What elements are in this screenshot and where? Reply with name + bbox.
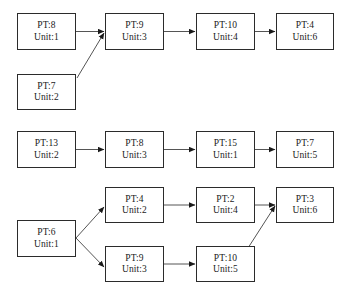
node-unit-label: Unit:1 — [34, 32, 59, 43]
node-pt-label: PT:6 — [37, 227, 55, 238]
node-chain1-pt10[interactable]: PT:10 Unit:4 — [196, 13, 255, 50]
node-unit-label: Unit:2 — [34, 150, 59, 161]
edge-n5-n2 — [77, 33, 104, 78]
node-pt-label: PT:9 — [125, 20, 143, 31]
node-chain1-pt7[interactable]: PT:7 Unit:2 — [17, 74, 76, 110]
node-chain3-pt3[interactable]: PT:3 Unit:6 — [276, 187, 334, 223]
node-unit-label: Unit:4 — [213, 205, 238, 216]
node-pt-label: PT:2 — [216, 194, 234, 205]
node-unit-label: Unit:3 — [122, 264, 147, 275]
edge-b1-b2 — [76, 207, 104, 238]
edge-b1-b5 — [76, 238, 104, 267]
node-unit-label: Unit:2 — [34, 92, 59, 103]
node-unit-label: Unit:2 — [122, 205, 147, 216]
node-pt-label: PT:7 — [37, 81, 55, 92]
node-pt-label: PT:3 — [296, 194, 314, 205]
node-pt-label: PT:4 — [125, 194, 143, 205]
node-chain3-pt6[interactable]: PT:6 Unit:1 — [17, 220, 76, 257]
node-chain2-pt13[interactable]: PT:13 Unit:2 — [17, 131, 76, 168]
node-chain2-pt7[interactable]: PT:7 Unit:5 — [276, 131, 334, 168]
node-unit-label: Unit:6 — [293, 32, 318, 43]
node-chain3-pt2[interactable]: PT:2 Unit:4 — [196, 187, 255, 223]
node-pt-label: PT:8 — [125, 138, 143, 149]
node-chain1-pt9[interactable]: PT:9 Unit:3 — [105, 13, 164, 50]
node-chain1-pt4[interactable]: PT:4 Unit:6 — [276, 13, 334, 50]
node-chain2-pt15[interactable]: PT:15 Unit:1 — [196, 131, 255, 168]
node-unit-label: Unit:4 — [213, 32, 238, 43]
node-unit-label: Unit:3 — [122, 150, 147, 161]
node-unit-label: Unit:1 — [213, 150, 238, 161]
node-unit-label: Unit:3 — [122, 32, 147, 43]
node-unit-label: Unit:1 — [34, 239, 59, 250]
node-pt-label: PT:4 — [296, 20, 314, 31]
node-chain2-pt8[interactable]: PT:8 Unit:3 — [105, 131, 164, 168]
node-chain3-pt10[interactable]: PT:10 Unit:5 — [196, 246, 255, 282]
node-unit-label: Unit:5 — [213, 264, 238, 275]
node-pt-label: PT:7 — [296, 138, 314, 149]
node-pt-label: PT:9 — [125, 253, 143, 264]
node-chain3-pt9[interactable]: PT:9 Unit:3 — [105, 246, 164, 282]
process-flow-diagram: PT:8 Unit:1 PT:9 Unit:3 PT:10 Unit:4 PT:… — [0, 0, 345, 295]
node-pt-label: PT:10 — [214, 20, 237, 31]
node-pt-label: PT:15 — [214, 138, 237, 149]
node-pt-label: PT:10 — [214, 253, 237, 264]
node-unit-label: Unit:5 — [293, 150, 318, 161]
node-chain3-pt4[interactable]: PT:4 Unit:2 — [105, 187, 164, 223]
node-pt-label: PT:13 — [35, 138, 58, 149]
node-chain1-pt8[interactable]: PT:8 Unit:1 — [17, 13, 76, 50]
node-unit-label: Unit:6 — [293, 205, 318, 216]
node-pt-label: PT:8 — [37, 20, 55, 31]
